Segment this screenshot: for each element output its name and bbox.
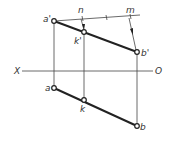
label-k-prime: k': [74, 36, 82, 46]
segment-a-b: [54, 88, 137, 126]
label-n: n: [78, 5, 84, 15]
point-a-prime: [52, 19, 57, 24]
segment-a-prime-b-prime: [54, 21, 137, 52]
axis-label-x: X: [13, 66, 21, 76]
point-a: [52, 86, 57, 91]
label-b: b: [140, 122, 146, 132]
label-a-prime: a': [43, 14, 51, 24]
auxiliary-ratio-line: [54, 15, 140, 21]
label-k: k: [80, 104, 86, 114]
point-b-prime: [135, 50, 140, 55]
point-b: [135, 124, 140, 129]
tick-mid: [106, 15, 107, 20]
point-k-prime: [82, 30, 87, 35]
point-k: [82, 98, 87, 103]
tick-n: [82, 16, 83, 21]
label-b-prime: b': [141, 48, 149, 58]
label-m: m: [126, 5, 135, 15]
axis-label-o: O: [155, 66, 162, 76]
projection-diagram: X O a' k' b' a k b n m: [0, 0, 173, 142]
label-a: a: [45, 83, 51, 93]
arrow-head-icon: [130, 28, 133, 35]
